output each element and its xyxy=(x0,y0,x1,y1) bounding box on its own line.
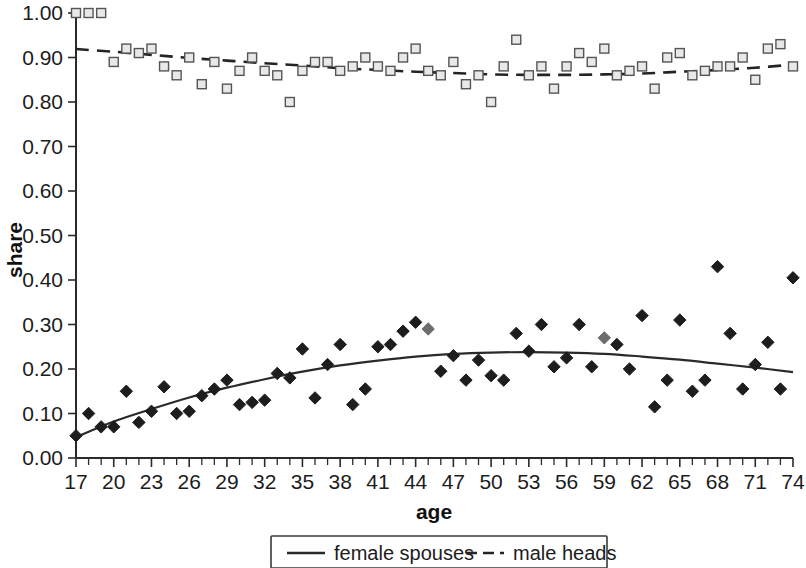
data-point-male-heads xyxy=(235,66,244,75)
x-tick-label: 32 xyxy=(253,470,276,493)
data-point-female-spouses xyxy=(221,374,233,386)
male-heads-points xyxy=(72,9,798,107)
y-tick-label: 0.70 xyxy=(22,135,63,158)
data-point-male-heads xyxy=(399,53,408,62)
y-tick-label: 1.00 xyxy=(22,1,63,24)
data-point-male-heads xyxy=(763,44,772,53)
data-point-female-spouses xyxy=(598,332,610,344)
data-point-female-spouses xyxy=(724,327,736,339)
data-point-male-heads xyxy=(600,44,609,53)
data-point-male-heads xyxy=(650,84,659,93)
data-point-female-spouses xyxy=(347,398,359,410)
x-tick-label: 17 xyxy=(64,470,87,493)
data-point-male-heads xyxy=(550,84,559,93)
y-tick-label: 0.00 xyxy=(22,446,63,469)
data-point-female-spouses xyxy=(535,318,547,330)
x-tick-label: 41 xyxy=(366,470,389,493)
scatter-plot: 0.000.100.200.300.400.500.600.700.800.90… xyxy=(0,0,806,568)
y-tick-label: 0.10 xyxy=(22,402,63,425)
x-tick-label: 26 xyxy=(178,470,201,493)
x-tick-label: 56 xyxy=(555,470,578,493)
x-tick-label: 59 xyxy=(593,470,616,493)
y-tick-label: 0.90 xyxy=(22,46,63,69)
data-point-male-heads xyxy=(298,66,307,75)
data-point-male-heads xyxy=(638,62,647,71)
data-point-male-heads xyxy=(524,71,533,80)
data-point-female-spouses xyxy=(372,341,384,353)
data-point-female-spouses xyxy=(586,361,598,373)
data-point-male-heads xyxy=(512,35,521,44)
data-point-male-heads xyxy=(587,57,596,66)
data-point-female-spouses xyxy=(183,405,195,417)
x-axis-ticks xyxy=(76,458,793,467)
data-point-female-spouses xyxy=(787,272,799,284)
data-point-female-spouses xyxy=(158,381,170,393)
x-axis-title: age xyxy=(416,500,452,523)
data-point-male-heads xyxy=(323,57,332,66)
x-tick-label: 50 xyxy=(479,470,502,493)
data-point-female-spouses xyxy=(573,318,585,330)
y-axis-ticks xyxy=(68,13,76,458)
data-point-male-heads xyxy=(373,62,382,71)
data-point-male-heads xyxy=(675,49,684,58)
data-point-female-spouses xyxy=(661,374,673,386)
data-point-male-heads xyxy=(461,80,470,89)
y-tick-label: 0.20 xyxy=(22,357,63,380)
data-point-female-spouses xyxy=(309,392,321,404)
y-tick-label: 0.60 xyxy=(22,179,63,202)
female-spouses-trend-line xyxy=(76,352,793,437)
data-point-male-heads xyxy=(436,71,445,80)
data-point-male-heads xyxy=(575,49,584,58)
data-point-male-heads xyxy=(197,80,206,89)
data-point-male-heads xyxy=(311,57,320,66)
y-tick-label: 0.50 xyxy=(22,224,63,247)
x-tick-label: 23 xyxy=(140,470,163,493)
y-axis-tick-labels: 0.000.100.200.300.400.500.600.700.800.90… xyxy=(22,1,63,469)
data-point-female-spouses xyxy=(497,374,509,386)
data-point-male-heads xyxy=(72,9,81,18)
data-point-female-spouses xyxy=(334,338,346,350)
data-point-female-spouses xyxy=(686,385,698,397)
x-tick-label: 62 xyxy=(630,470,653,493)
data-point-female-spouses xyxy=(258,394,270,406)
male-heads-trend-line xyxy=(76,49,793,75)
data-point-male-heads xyxy=(562,62,571,71)
data-point-male-heads xyxy=(285,98,294,107)
data-point-female-spouses xyxy=(208,383,220,395)
data-point-male-heads xyxy=(738,53,747,62)
data-point-female-spouses xyxy=(422,323,434,335)
x-tick-label: 71 xyxy=(744,470,767,493)
data-point-male-heads xyxy=(612,71,621,80)
data-point-male-heads xyxy=(185,53,194,62)
data-point-male-heads xyxy=(789,62,798,71)
data-point-female-spouses xyxy=(674,314,686,326)
x-axis-tick-labels: 1720232629323538414447505356596265687174 xyxy=(64,470,805,493)
data-point-female-spouses xyxy=(170,407,182,419)
data-point-male-heads xyxy=(499,62,508,71)
data-point-male-heads xyxy=(273,71,282,80)
y-tick-label: 0.80 xyxy=(22,90,63,113)
data-point-male-heads xyxy=(474,71,483,80)
data-point-female-spouses xyxy=(623,363,635,375)
data-point-male-heads xyxy=(348,62,357,71)
x-tick-label: 68 xyxy=(706,470,729,493)
x-tick-label: 44 xyxy=(404,470,428,493)
data-point-female-spouses xyxy=(762,336,774,348)
data-point-female-spouses xyxy=(359,383,371,395)
data-point-male-heads xyxy=(751,75,760,84)
data-point-male-heads xyxy=(260,66,269,75)
data-point-female-spouses xyxy=(296,343,308,355)
data-point-male-heads xyxy=(663,53,672,62)
x-tick-label: 74 xyxy=(781,470,805,493)
data-point-female-spouses xyxy=(611,338,623,350)
data-point-male-heads xyxy=(449,57,458,66)
data-point-male-heads xyxy=(147,44,156,53)
chart-figure: 0.000.100.200.300.400.500.600.700.800.90… xyxy=(0,0,806,568)
data-point-male-heads xyxy=(97,9,106,18)
data-point-male-heads xyxy=(336,66,345,75)
data-point-male-heads xyxy=(424,66,433,75)
x-tick-label: 20 xyxy=(102,470,125,493)
female-spouses-points xyxy=(70,260,799,442)
data-point-male-heads xyxy=(411,44,420,53)
data-point-female-spouses xyxy=(435,365,447,377)
